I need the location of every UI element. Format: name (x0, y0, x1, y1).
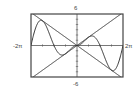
x-max-label: 2π (125, 43, 132, 49)
y-min-label: -6 (73, 81, 78, 87)
x-min-label: -2π (13, 43, 22, 49)
y-max-label: 6 (74, 5, 77, 11)
